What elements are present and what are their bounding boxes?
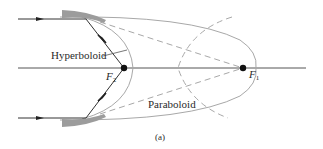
mirror-diagram: Hyperboloid Paraboloid F2 F1 (a) [0,0,323,149]
focus-2-label: F2 [105,70,117,84]
focus-1-label: F1 [248,68,260,82]
arrow-icon [36,116,44,120]
arrow-icon [98,93,106,101]
lower-mirror [62,114,106,127]
arrow-icon [36,17,44,21]
figure-caption: (a) [155,132,165,142]
hyperboloid-label: Hyperboloid [51,49,107,61]
focus-1-point [240,65,246,71]
upper-mirror [62,10,106,23]
paraboloid-label: Paraboloid [148,98,196,110]
focus-2-point [121,65,127,71]
arrow-icon [98,35,106,43]
dashed-line-upper [100,22,243,68]
